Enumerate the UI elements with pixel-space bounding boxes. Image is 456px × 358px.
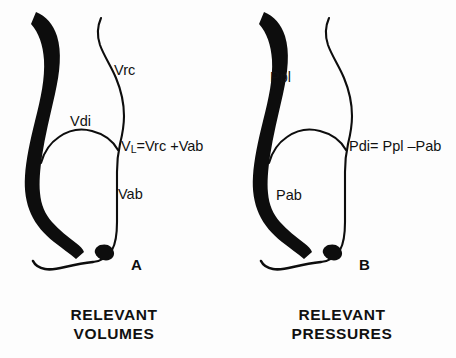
- caption-a: RELEVANT VOLUMES: [0, 306, 228, 344]
- caption-a-line2: VOLUMES: [0, 325, 228, 344]
- formula-lhs-a: V: [121, 138, 131, 154]
- label-ppl: Ppl: [270, 70, 291, 85]
- formula-transdiaphragmatic-pressure: Pdi= Ppl –Pab: [349, 139, 441, 154]
- label-pab: Pab: [276, 188, 302, 203]
- diaphragm-dome-a: [41, 130, 118, 163]
- formula-lhs-b: Pdi: [349, 138, 370, 154]
- bladder-marker-a: [95, 244, 114, 260]
- label-vrc: Vrc: [114, 63, 135, 78]
- caption-b-line1: RELEVANT: [228, 306, 456, 325]
- spine-band-a: [25, 12, 84, 259]
- caption-a-line1: RELEVANT: [0, 306, 228, 325]
- formula-rhs-a: =Vrc +Vab: [137, 138, 204, 154]
- label-vab: Vab: [118, 187, 143, 202]
- label-vdi: Vdi: [70, 114, 91, 129]
- panel-a-relevant-volumes: Vrc Vdi VL=Vrc +Vab Vab A RELEVANT VOLUM…: [0, 0, 228, 358]
- panel-b-relevant-pressures: Ppl Pdi= Ppl –Pab Pab B RELEVANT PRESSUR…: [228, 0, 456, 358]
- formula-rhs-b: = Ppl –Pab: [370, 138, 441, 154]
- pelvic-floor-a: [33, 261, 93, 269]
- pelvic-floor-b: [261, 261, 321, 269]
- formula-lhs-subscript-a: L: [131, 143, 137, 155]
- panel-letter-b: B: [359, 257, 370, 272]
- panel-letter-a: A: [131, 257, 142, 272]
- figure-relevant-volumes-and-pressures: Vrc Vdi VL=Vrc +Vab Vab A RELEVANT VOLUM…: [0, 0, 456, 358]
- bladder-marker-b: [323, 244, 342, 260]
- caption-b-line2: PRESSURES: [228, 325, 456, 344]
- diaphragm-dome-b: [269, 130, 346, 163]
- spine-band-b: [253, 12, 312, 259]
- formula-lung-volume: VL=Vrc +Vab: [121, 139, 203, 154]
- caption-b: RELEVANT PRESSURES: [228, 306, 456, 344]
